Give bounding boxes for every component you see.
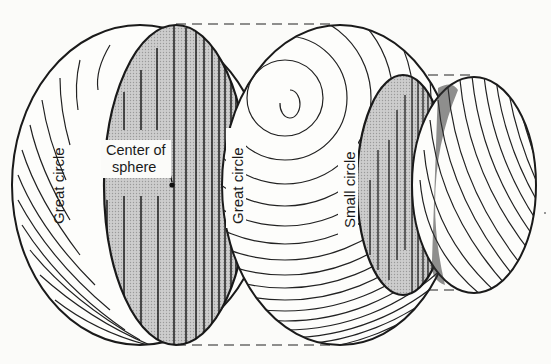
sphere-sections-diagram: Center of sphere Great circle xyxy=(0,0,551,364)
great-circle-label-left: Great circle xyxy=(50,147,67,224)
center-point xyxy=(169,182,174,187)
right-cap xyxy=(412,76,550,302)
svg-text:sphere: sphere xyxy=(112,159,156,175)
svg-text:Center of: Center of xyxy=(106,142,167,158)
small-circle-label: Small circle xyxy=(341,151,358,228)
great-circle-label-right: Great circle xyxy=(229,147,246,224)
center-label: Center of sphere xyxy=(101,140,171,178)
speck xyxy=(544,212,546,214)
